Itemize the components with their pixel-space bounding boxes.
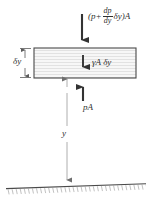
top-force-label: (p+ dp dy δy)A [88, 7, 130, 25]
bottom-force-label: pA [83, 103, 93, 112]
top-force-plus-sign: + [96, 11, 102, 21]
depth-label: y [62, 129, 66, 138]
datum-ground-line [6, 184, 146, 195]
element-height-dimension [20, 49, 31, 78]
weight-label: γA δy [92, 58, 111, 67]
pressure-gradient-fraction: dp dy [103, 7, 113, 25]
fraction-denominator: dy [103, 17, 113, 25]
top-force-delta-y: δy [114, 11, 122, 21]
fluid-element-box [34, 48, 136, 78]
element-height-label: δy [13, 57, 21, 66]
fluid-element-free-body-diagram: (p+ dp dy δy)A γA δy pA δy y [0, 0, 150, 204]
top-force-area-term: A [125, 11, 131, 21]
fraction-numerator: dp [103, 7, 113, 15]
diagram-canvas [0, 0, 150, 204]
